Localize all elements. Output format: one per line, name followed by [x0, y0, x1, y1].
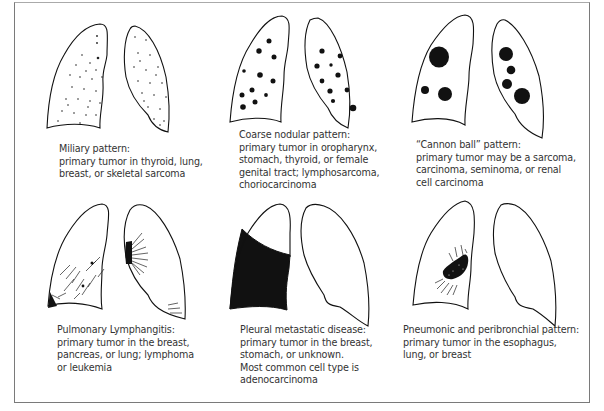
caption-line: primary tumor may be a sarcoma, [416, 152, 576, 165]
caption-line: stomach, or unknown. [240, 349, 372, 362]
lungs-coarse-nodular-illustration [220, 10, 410, 130]
caption-line: Most common cell type is [240, 362, 372, 375]
caption-pleural: Pleural metastatic disease: primary tumo… [240, 324, 372, 387]
caption-pneumonic: Pneumonic and peribronchial pattern: pri… [403, 324, 579, 362]
caption-title: Pleural metastatic disease: [240, 324, 372, 337]
caption-line: primary tumor in thyroid, lung, [59, 156, 203, 169]
caption-miliary: Miliary pattern: primary tumor in thyroi… [59, 143, 203, 181]
caption-line: breast, or skeletal sarcoma [59, 168, 203, 181]
caption-title: Coarse nodular pattern: [239, 129, 379, 142]
caption-line: primary tumor in the breast, [57, 337, 194, 350]
caption-lymphangitis: Pulmonary Lymphangitis: primary tumor in… [57, 324, 194, 374]
caption-line: adenocarcinoma [240, 374, 372, 387]
caption-line: stomach, thyroid, or female [239, 154, 379, 167]
caption-line: primary tumor in oropharynx, [239, 142, 379, 155]
caption-line: or leukemia [57, 362, 194, 375]
caption-coarse-nodular: Coarse nodular pattern: primary tumor in… [239, 129, 379, 192]
caption-line: choriocarcinoma [239, 179, 379, 192]
lungs-pleural-illustration [220, 195, 410, 330]
caption-line: primary tumor in the esophagus, [403, 337, 579, 350]
caption-title: Pneumonic and peribronchial pattern: [403, 324, 579, 337]
caption-title: Miliary pattern: [59, 143, 203, 156]
caption-line: cell carcinoma [416, 177, 576, 190]
lungs-pneumonic-illustration [405, 195, 595, 330]
caption-line: pancreas, or lung; lymphoma [57, 349, 194, 362]
caption-line: lung, or breast [403, 349, 579, 362]
caption-cannon-ball: “Cannon ball” pattern: primary tumor may… [416, 139, 576, 189]
lungs-lymphangitis-illustration [20, 195, 210, 330]
caption-line: carcinoma, seminoma, or renal [416, 164, 576, 177]
caption-title: Pulmonary Lymphangitis: [57, 324, 194, 337]
caption-line: primary tumor in the breast, [240, 337, 372, 350]
caption-title: “Cannon ball” pattern: [416, 139, 576, 152]
caption-line: genital tract; lymphosarcoma, [239, 167, 379, 180]
lungs-cannon-ball-illustration [405, 10, 595, 145]
lungs-miliary-illustration [20, 15, 210, 135]
